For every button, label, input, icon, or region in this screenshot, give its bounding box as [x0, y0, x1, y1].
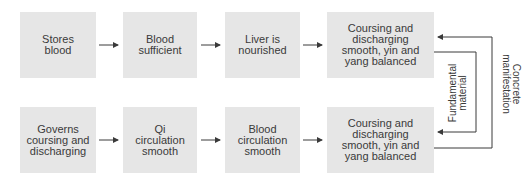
concrete-manifestation-label: Concrete manifestation [499, 44, 521, 124]
fundamental-material-label: Fundamental material [448, 58, 470, 128]
